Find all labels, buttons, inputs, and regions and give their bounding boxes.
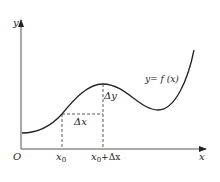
delta-x-label: Δx	[73, 116, 87, 127]
derivative-diagram: y x O x0 x0+Δx Δx Δy y= f (x)	[0, 0, 220, 182]
origin-label: O	[13, 151, 21, 162]
x-axis-label: x	[199, 151, 205, 162]
x0dx-tick-label: x0+Δx	[91, 151, 120, 164]
delta-y-label: Δy	[103, 90, 117, 101]
x0-tick-label: x0	[56, 151, 66, 164]
y-axis-label: y	[12, 17, 19, 28]
curve-label: y= f (x)	[144, 74, 179, 84]
